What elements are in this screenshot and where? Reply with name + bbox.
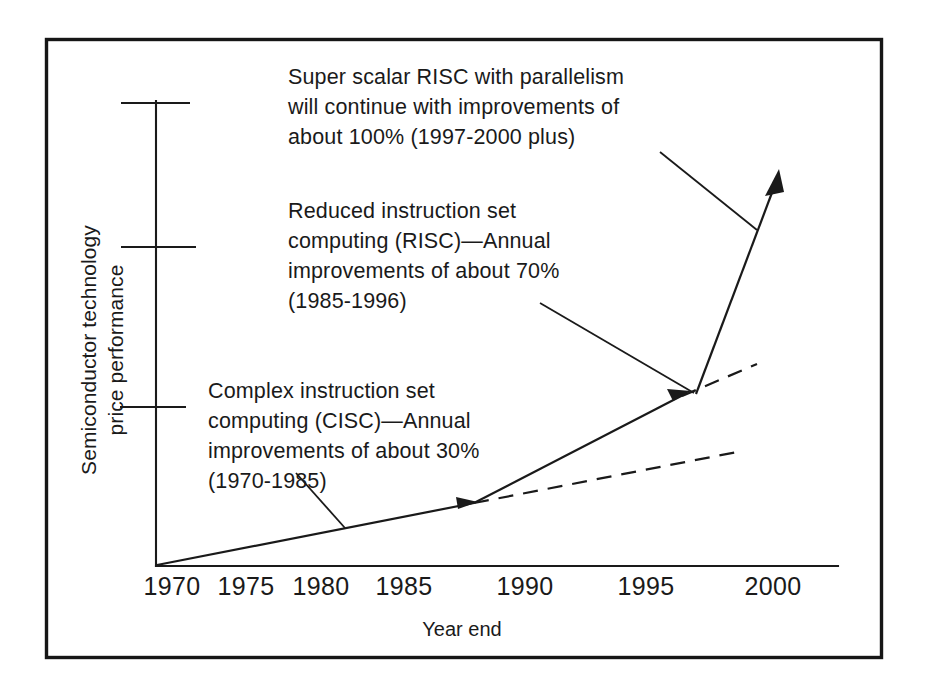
x-tick-label-1995: 1995 — [617, 572, 674, 600]
y-axis-title-line1: Semiconductor technology — [77, 225, 100, 475]
x-tick-label-1970: 1970 — [143, 572, 200, 600]
x-tick-label-1985: 1985 — [375, 572, 432, 600]
x-tick-label-1980: 1980 — [292, 572, 349, 600]
annotation-risc: Reduced instruction set computing (RISC)… — [288, 196, 588, 316]
annotation-cisc: Complex instruction set computing (CISC)… — [208, 376, 508, 496]
annotation-superscalar-risc: Super scalar RISC with parallelism will … — [288, 62, 688, 152]
x-tick-label-2000: 2000 — [744, 572, 801, 600]
x-tick-label-1990: 1990 — [496, 572, 553, 600]
x-tick-label-1975: 1975 — [217, 572, 274, 600]
figure-root: 1970 1975 1980 1985 1990 1995 2000 Year … — [0, 0, 925, 700]
y-axis-title-line2: price performance — [104, 265, 127, 436]
x-axis-title: Year end — [422, 618, 501, 640]
